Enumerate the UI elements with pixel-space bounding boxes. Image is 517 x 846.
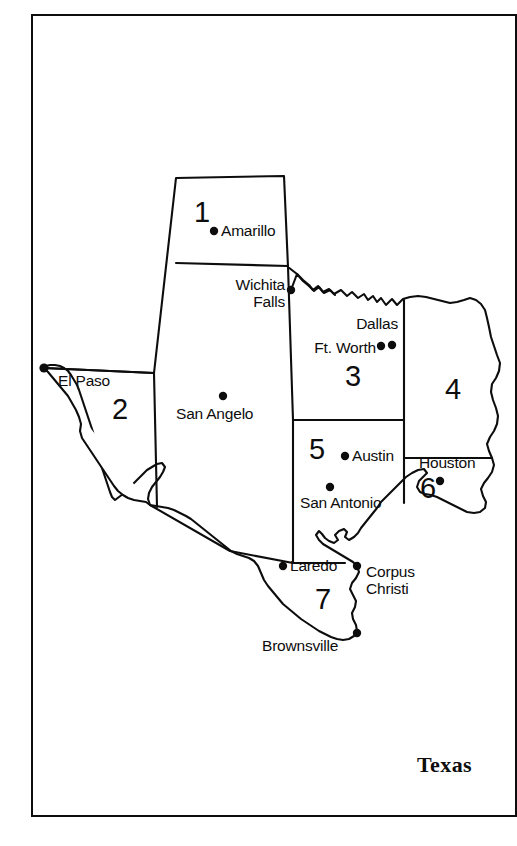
city-dot-el-paso[interactable] <box>39 363 48 372</box>
city-dot-amarillo[interactable] <box>210 227 218 235</box>
city-label-san-antonio[interactable]: San Antonio <box>300 494 381 511</box>
city-dot-houston[interactable] <box>436 477 444 485</box>
region-number-3[interactable]: 3 <box>345 362 361 391</box>
city-dot-wichita-falls[interactable] <box>287 286 295 294</box>
city-dot-san-angelo[interactable] <box>219 392 227 400</box>
city-dot-ft-worth[interactable] <box>377 342 385 350</box>
city-dot-austin[interactable] <box>341 452 349 460</box>
city-label-san-angelo[interactable]: San Angelo <box>176 405 253 422</box>
city-dot-corpus-christi[interactable] <box>353 562 361 570</box>
city-label-houston[interactable]: Houston <box>419 454 475 471</box>
city-label-laredo[interactable]: Laredo <box>290 557 337 574</box>
city-dot-dallas[interactable] <box>388 341 396 349</box>
city-label-wichita-falls-line1: Wichita <box>236 276 285 293</box>
city-dot-brownsville[interactable] <box>353 629 361 637</box>
region-number-7[interactable]: 7 <box>315 585 331 614</box>
state-title-label: Texas <box>417 752 472 778</box>
city-label-wichita-falls[interactable]: Wichita Falls <box>236 276 285 310</box>
city-label-brownsville[interactable]: Brownsville <box>262 637 338 654</box>
city-label-corpus-christi[interactable]: Corpus Christi <box>366 563 415 597</box>
city-label-corpus-christi-line1: Corpus <box>366 563 415 580</box>
region-number-4[interactable]: 4 <box>445 375 461 404</box>
city-label-amarillo[interactable]: Amarillo <box>221 222 275 239</box>
region-number-5[interactable]: 5 <box>309 435 325 464</box>
region-number-1[interactable]: 1 <box>194 198 210 227</box>
region-number-6[interactable]: 6 <box>420 474 436 503</box>
city-label-corpus-christi-line2: Christi <box>366 580 409 597</box>
city-dot-san-antonio[interactable] <box>326 483 334 491</box>
city-label-wichita-falls-line2: Falls <box>253 293 285 310</box>
region-number-2[interactable]: 2 <box>112 395 128 424</box>
city-label-austin[interactable]: Austin <box>352 447 394 464</box>
city-dot-laredo[interactable] <box>279 562 287 570</box>
city-label-el-paso[interactable]: El Paso <box>58 372 110 389</box>
city-label-ft-worth[interactable]: Ft. Worth <box>314 339 376 356</box>
city-label-dallas[interactable]: Dallas <box>356 315 398 332</box>
